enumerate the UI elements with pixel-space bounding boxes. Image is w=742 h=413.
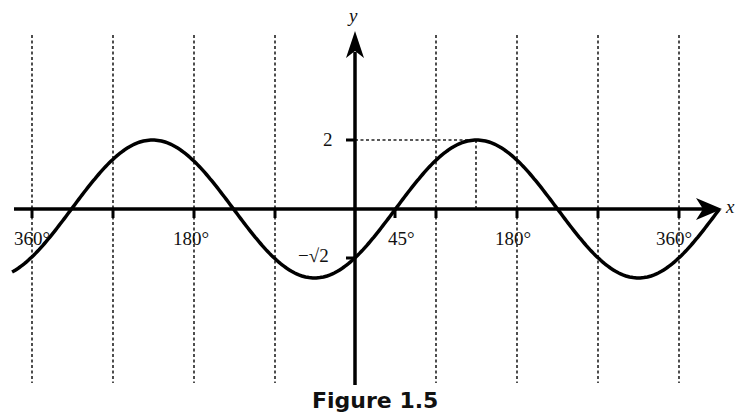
- x-tick-360: 360°: [656, 228, 692, 250]
- x-tick-neg180: 180°: [173, 228, 209, 250]
- x-tick-neg360: 360°: [14, 228, 50, 250]
- y-tick-2: 2: [323, 129, 333, 151]
- x-tick-45: 45°: [388, 228, 415, 250]
- x-tick-180: 180°: [495, 228, 531, 250]
- figure-caption: Figure 1.5: [312, 388, 438, 413]
- peak-guides: [355, 140, 476, 209]
- y-tick-neg-root2: −√2: [298, 245, 329, 267]
- y-axis-label: y: [349, 5, 357, 27]
- x-axis-label: x: [726, 196, 734, 218]
